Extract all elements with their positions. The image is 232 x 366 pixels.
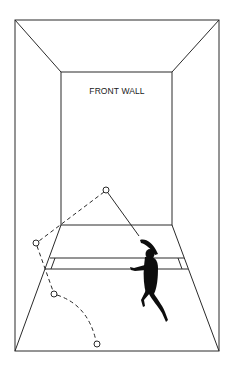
rebound-path-1 bbox=[39, 192, 104, 241]
court-drawing bbox=[0, 0, 232, 366]
ceiling-corner-left bbox=[15, 20, 61, 72]
floor-corner-right bbox=[172, 225, 219, 351]
player-silhouette-icon bbox=[130, 240, 168, 322]
service-box-right bbox=[178, 258, 182, 269]
ceiling-corner-right bbox=[172, 20, 219, 72]
ball-icon bbox=[51, 291, 57, 297]
rebound-path-3 bbox=[57, 295, 96, 341]
ball-icon bbox=[94, 341, 100, 347]
service-box-left bbox=[51, 258, 55, 269]
outer-court-outline bbox=[15, 20, 219, 351]
court-diagram: FRONT WALL bbox=[0, 0, 232, 366]
ball-icon bbox=[103, 187, 109, 193]
ball-icon bbox=[33, 240, 39, 246]
front-wall-label: FRONT WALL bbox=[60, 86, 174, 96]
shot-line bbox=[108, 193, 139, 236]
